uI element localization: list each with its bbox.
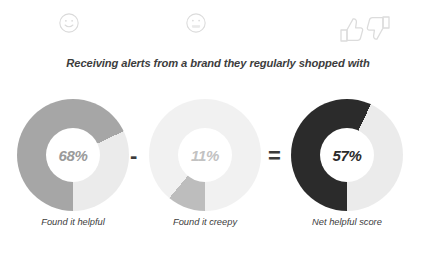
- donut-hole-net-helpful-score: 57%: [320, 128, 374, 182]
- caption-found-it-creepy: Found it creepy: [146, 217, 264, 227]
- chart-group-found-it-creepy[interactable]: 11% Found it creepy: [146, 99, 264, 211]
- donut-value-found-it-helpful: 68%: [58, 148, 87, 163]
- chart-group-found-it-helpful[interactable]: 68% Found it helpful: [14, 99, 132, 211]
- chart-group-net-helpful-score[interactable]: 57% Net helpful score: [288, 99, 406, 211]
- donut-chart-equation: 68% Found it helpful - 11% Found it cree…: [0, 99, 436, 227]
- donut-value-found-it-creepy: 11%: [191, 148, 219, 163]
- equals-operator: =: [268, 145, 281, 167]
- minus-operator: -: [130, 145, 137, 167]
- donut-chart-net-helpful-score[interactable]: 57%: [291, 99, 403, 211]
- donut-chart-found-it-creepy[interactable]: 11%: [149, 99, 261, 211]
- donut-chart-found-it-helpful[interactable]: 68%: [17, 99, 129, 211]
- neutral-face-icon: [185, 12, 207, 34]
- donut-hole-found-it-helpful: 68%: [46, 128, 100, 182]
- smiley-face-icon: [58, 12, 80, 34]
- thumbs-up-down-icon: [337, 12, 393, 46]
- donut-value-net-helpful-score: 57%: [332, 148, 361, 163]
- donut-hole-found-it-creepy: 11%: [178, 128, 232, 182]
- icon-row: [0, 12, 436, 52]
- page-title: Receiving alerts from a brand they regul…: [0, 57, 436, 69]
- caption-found-it-helpful: Found it helpful: [14, 217, 132, 227]
- caption-net-helpful-score: Net helpful score: [288, 217, 406, 227]
